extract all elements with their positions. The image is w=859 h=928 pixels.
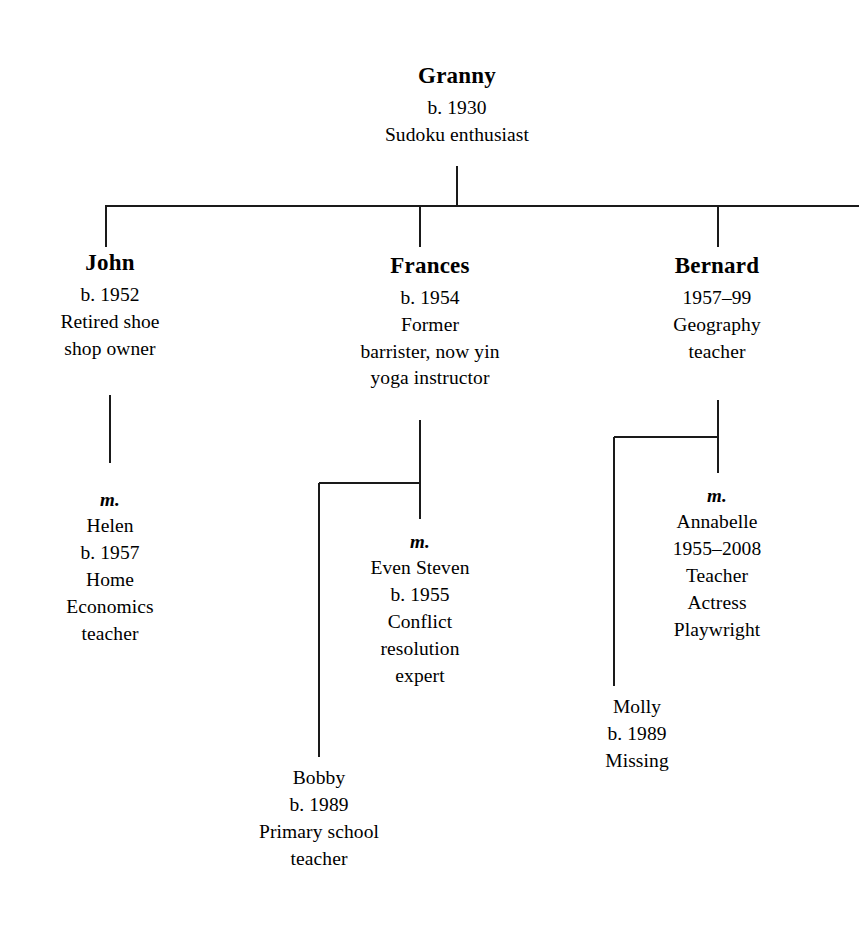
- person-detail: barrister, now yin: [330, 339, 530, 366]
- person-name: Bernard: [617, 250, 817, 282]
- person-name: Granny: [357, 60, 557, 92]
- person-bernard: Bernard 1957–99 Geography teacher: [617, 250, 817, 365]
- person-name: Annabelle: [617, 509, 817, 536]
- person-detail: b. 1955: [320, 582, 520, 609]
- person-detail: b. 1952: [10, 282, 210, 309]
- person-detail: b. 1989: [547, 721, 727, 748]
- person-detail: Retired shoe: [10, 309, 210, 336]
- person-name: Frances: [330, 250, 530, 282]
- family-tree-diagram: Granny b. 1930 Sudoku enthusiast John b.…: [0, 0, 859, 928]
- person-detail: 1955–2008: [617, 536, 817, 563]
- person-name: Molly: [547, 694, 727, 721]
- person-name: Helen: [10, 513, 210, 540]
- person-detail: b. 1954: [330, 285, 530, 312]
- person-detail: Geography: [617, 312, 817, 339]
- person-name: Even Steven: [320, 555, 520, 582]
- person-detail: Home: [10, 567, 210, 594]
- person-detail: Primary school: [219, 819, 419, 846]
- person-detail: Actress: [617, 590, 817, 617]
- person-name: John: [10, 247, 210, 279]
- person-helen: m. Helen b. 1957 Home Economics teacher: [10, 487, 210, 648]
- person-detail: Former: [330, 312, 530, 339]
- person-detail: teacher: [617, 339, 817, 366]
- marriage-mark: m.: [617, 483, 817, 509]
- person-detail: Economics: [10, 594, 210, 621]
- person-detail: 1957–99: [617, 285, 817, 312]
- person-detail: resolution: [320, 636, 520, 663]
- person-detail: b. 1989: [219, 792, 419, 819]
- person-bobby: Bobby b. 1989 Primary school teacher: [219, 765, 419, 873]
- person-john: John b. 1952 Retired shoe shop owner: [10, 247, 210, 362]
- person-granny: Granny b. 1930 Sudoku enthusiast: [357, 60, 557, 149]
- person-molly: Molly b. 1989 Missing: [547, 694, 727, 775]
- person-even-steven: m. Even Steven b. 1955 Conflict resoluti…: [320, 529, 520, 690]
- person-detail: teacher: [219, 846, 419, 873]
- person-detail: teacher: [10, 621, 210, 648]
- person-detail: yoga instructor: [330, 365, 530, 392]
- person-detail: b. 1930: [357, 95, 557, 122]
- person-detail: Playwright: [617, 617, 817, 644]
- marriage-mark: m.: [10, 487, 210, 513]
- person-frances: Frances b. 1954 Former barrister, now yi…: [330, 250, 530, 392]
- person-annabelle: m. Annabelle 1955–2008 Teacher Actress P…: [617, 483, 817, 644]
- marriage-mark: m.: [320, 529, 520, 555]
- person-detail: b. 1957: [10, 540, 210, 567]
- person-name: Bobby: [219, 765, 419, 792]
- person-detail: Sudoku enthusiast: [357, 122, 557, 149]
- person-detail: expert: [320, 663, 520, 690]
- person-detail: shop owner: [10, 336, 210, 363]
- person-detail: Conflict: [320, 609, 520, 636]
- person-detail: Teacher: [617, 563, 817, 590]
- person-detail: Missing: [547, 748, 727, 775]
